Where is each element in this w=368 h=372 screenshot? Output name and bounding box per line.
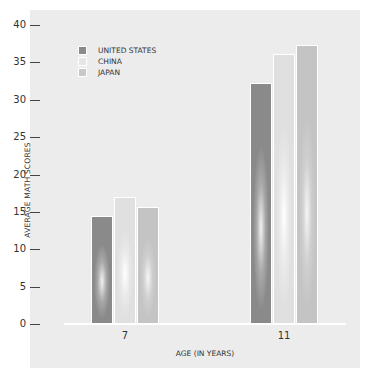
- legend-label: UNITED STATES: [98, 46, 156, 55]
- y-tick-label: 10: [13, 242, 26, 256]
- x-axis-baseline: [64, 323, 346, 325]
- y-tick-mark: [30, 249, 40, 250]
- y-tick: 20: [0, 168, 40, 182]
- y-tick-mark: [30, 25, 40, 26]
- y-tick: 30: [0, 93, 40, 107]
- y-axis-label: AVERAGE MATH SCORES: [23, 142, 32, 237]
- legend-item-united-states: UNITED STATES: [78, 45, 156, 56]
- y-tick: 35: [0, 55, 40, 69]
- y-tick-mark: [30, 212, 40, 213]
- bar-japan-age-11: [296, 45, 318, 324]
- x-category-label: 11: [278, 330, 291, 341]
- y-tick-label: 30: [13, 93, 26, 107]
- y-tick-mark: [30, 137, 40, 138]
- legend-swatch-china: [78, 57, 87, 66]
- bar-china-age-11: [273, 54, 295, 324]
- bar-united-states-age-7: [91, 216, 113, 324]
- y-tick-mark: [30, 62, 40, 63]
- y-tick-label: 40: [13, 18, 26, 32]
- y-tick: 40: [0, 18, 40, 32]
- y-tick-mark: [30, 324, 40, 325]
- x-axis-label: AGE (IN YEARS): [176, 349, 234, 358]
- legend: UNITED STATES CHINA JAPAN: [78, 45, 156, 78]
- y-tick: 25: [0, 130, 40, 144]
- bar-united-states-age-11: [250, 83, 272, 324]
- y-tick-mark: [30, 100, 40, 101]
- x-category-label: 7: [122, 330, 128, 341]
- y-tick: 5: [0, 280, 40, 294]
- y-tick-label: 35: [13, 55, 26, 69]
- y-tick: 10: [0, 242, 40, 256]
- legend-item-japan: JAPAN: [78, 67, 156, 78]
- bar-china-age-7: [114, 197, 136, 324]
- legend-swatch-united-states: [78, 46, 87, 55]
- legend-swatch-japan: [78, 68, 87, 77]
- legend-item-china: CHINA: [78, 56, 156, 67]
- y-tick-label: 0: [20, 317, 26, 331]
- y-tick-label: 5: [20, 280, 26, 294]
- y-tick-mark: [30, 175, 40, 176]
- legend-label: CHINA: [98, 57, 122, 66]
- legend-label: JAPAN: [98, 68, 120, 77]
- bar-japan-age-7: [137, 207, 159, 324]
- y-tick-mark: [30, 287, 40, 288]
- y-tick: 0: [0, 317, 40, 331]
- y-tick: 15: [0, 205, 40, 219]
